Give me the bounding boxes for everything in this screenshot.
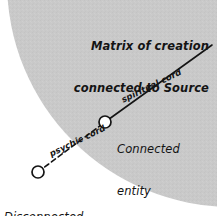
matrix-title-line-1: Matrix of creation xyxy=(74,39,209,53)
matrix-title: Matrix of creation connected to Source xyxy=(74,11,209,123)
connected-entity-label-line-2: entity xyxy=(117,184,180,198)
disconnected-entity-label: Disconnected entity xyxy=(4,182,83,216)
disconnected-entity-label-line-1: Disconnected xyxy=(4,210,83,216)
connected-entity-label: Connected entity xyxy=(117,114,180,216)
diagram-canvas: Matrix of creation connected to Source C… xyxy=(0,0,217,216)
connected-entity-label-line-1: Connected xyxy=(117,142,180,156)
disconnected-entity-node xyxy=(32,166,44,178)
